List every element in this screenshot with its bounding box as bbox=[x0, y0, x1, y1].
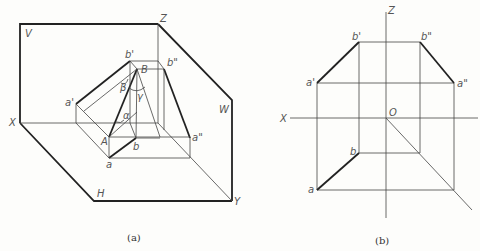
label-alpha: α bbox=[123, 110, 130, 121]
label-X: X bbox=[8, 117, 17, 128]
line-b-dprime-a-dprime-b bbox=[420, 42, 454, 83]
label-Z-b: Z bbox=[387, 5, 396, 16]
line-a-dprime-b-dprime bbox=[164, 69, 190, 138]
label-b: b bbox=[133, 141, 139, 152]
label-X-b: X bbox=[279, 113, 288, 124]
line-a-prime-b-prime-b bbox=[317, 42, 359, 83]
label-B: B bbox=[141, 64, 148, 75]
label-b-dprime-b: b" bbox=[421, 31, 432, 42]
label-H: H bbox=[97, 188, 105, 199]
label-b-dprime: b" bbox=[167, 57, 178, 68]
line-a-b-b bbox=[317, 153, 359, 190]
label-beta: β bbox=[119, 82, 127, 93]
label-O-b: O bbox=[389, 107, 397, 118]
caption-b: (b) bbox=[375, 235, 389, 246]
line-AB bbox=[109, 69, 137, 137]
label-gamma: γ bbox=[137, 91, 144, 102]
label-b-prime-b: b' bbox=[352, 31, 361, 42]
projection-diagram: V Z W X H Y b' B b" a' A a b a" β γ α (a… bbox=[0, 0, 480, 251]
label-Y: Y bbox=[234, 196, 241, 207]
label-a-prime: a' bbox=[65, 97, 74, 108]
label-V: V bbox=[25, 28, 33, 39]
label-W: W bbox=[219, 104, 230, 115]
label-b-b: b bbox=[350, 146, 356, 157]
figure-b: Z X O b' b" a' a" b a (b) bbox=[279, 5, 478, 246]
label-a-dprime-b: a" bbox=[457, 78, 468, 89]
label-A: A bbox=[100, 136, 108, 147]
diagonal-45 bbox=[386, 118, 472, 210]
label-Z: Z bbox=[159, 13, 168, 24]
label-a-dprime: a" bbox=[192, 132, 203, 143]
label-a: a bbox=[106, 159, 112, 170]
figure-a: V Z W X H Y b' B b" a' A a b a" β γ α (a… bbox=[8, 13, 241, 243]
line-a-b bbox=[109, 138, 136, 158]
caption-a: (a) bbox=[127, 232, 141, 243]
label-a-b: a bbox=[308, 184, 314, 195]
label-a-prime-b: a' bbox=[306, 77, 315, 88]
label-b-prime: b' bbox=[125, 49, 134, 60]
